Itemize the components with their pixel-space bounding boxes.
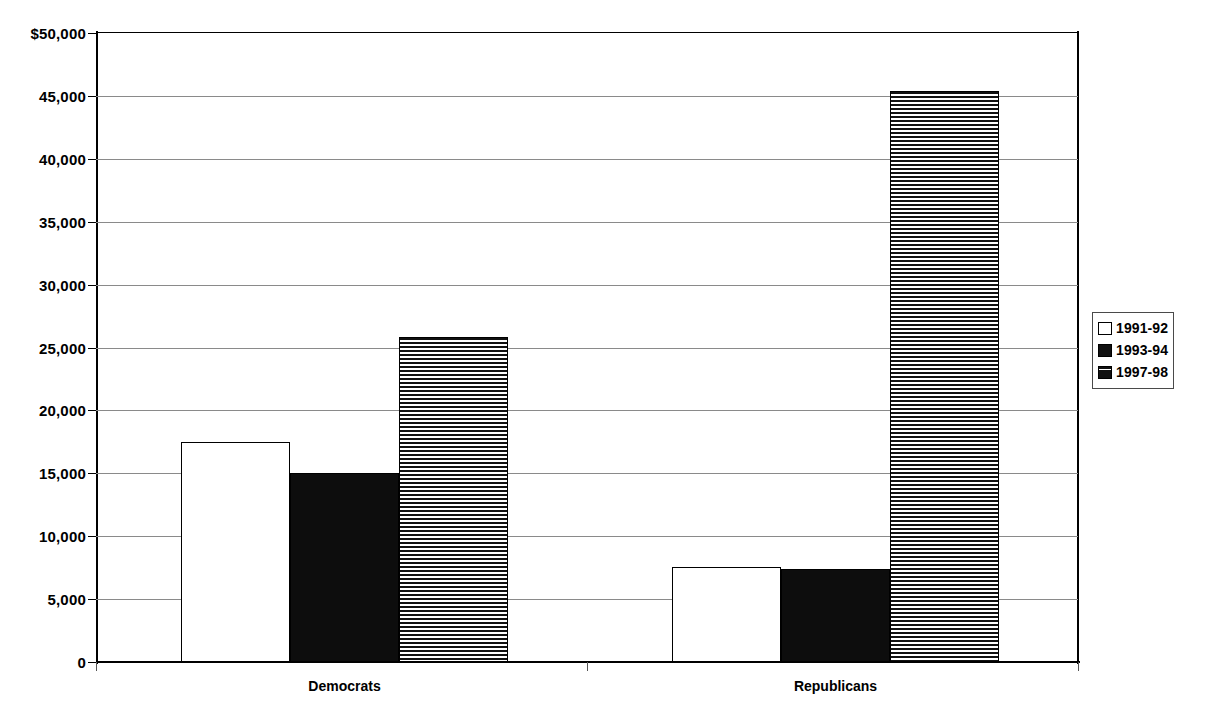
y-axis-tick-label: 35,000 — [39, 214, 86, 229]
y-axis-tick-mark — [88, 662, 96, 663]
y-axis-tick-mark — [88, 285, 96, 286]
y-axis-tick-mark — [88, 348, 96, 349]
legend-swatch-black-icon — [1098, 344, 1112, 357]
y-axis-tick-label: 20,000 — [39, 403, 86, 418]
y-axis-tick-label: 0 — [77, 655, 86, 670]
legend-item[interactable]: 1993-94 — [1098, 339, 1168, 361]
y-axis-tick-mark — [88, 599, 96, 600]
y-axis-tick-mark — [88, 473, 96, 474]
y-axis-tick-mark — [88, 96, 96, 97]
bar-republicans-1991-92 — [672, 567, 781, 662]
bar-chart: $50,00045,00040,00035,00030,00025,00020,… — [0, 0, 1209, 717]
legend-swatch-stripe-icon — [1098, 366, 1112, 379]
y-axis-tick-mark — [88, 159, 96, 160]
x-axis-tick-mark — [96, 662, 97, 671]
legend-item[interactable]: 1991-92 — [1098, 317, 1168, 339]
bar-republicans-1993-94 — [781, 569, 890, 662]
legend-item-label: 1993-94 — [1116, 342, 1168, 358]
legend-item-label: 1991-92 — [1116, 320, 1168, 336]
y-axis-tick-label: 40,000 — [39, 151, 86, 166]
bar-republicans-1997-98 — [890, 91, 999, 662]
y-axis-tick-mark — [88, 410, 96, 411]
y-axis-tick-mark — [88, 222, 96, 223]
y-axis-tick-label: 15,000 — [39, 466, 86, 481]
x-axis-category-label: Republicans — [794, 678, 877, 694]
y-axis-tick-label: $50,000 — [30, 26, 86, 41]
y-axis-tick-label: 10,000 — [39, 529, 86, 544]
y-axis-tick-label: 5,000 — [47, 592, 86, 607]
y-axis-tick-mark — [88, 536, 96, 537]
legend-swatch-white-icon — [1098, 322, 1112, 335]
x-axis-category-label: Democrats — [308, 678, 380, 694]
legend: 1991-921993-941997-98 — [1092, 312, 1174, 389]
bar-democrats-1997-98 — [399, 337, 508, 662]
legend-item-label: 1997-98 — [1116, 364, 1168, 380]
x-axis-tick-mark — [587, 662, 588, 671]
y-axis-tick-label: 25,000 — [39, 340, 86, 355]
y-axis-tick-label: 45,000 — [39, 88, 86, 103]
bar-democrats-1991-92 — [181, 442, 290, 662]
bar-democrats-1993-94 — [290, 473, 399, 662]
y-axis-tick-mark — [88, 33, 96, 34]
legend-item[interactable]: 1997-98 — [1098, 361, 1168, 383]
plot-area — [96, 33, 1078, 662]
x-axis-tick-mark — [1078, 662, 1079, 671]
y-axis-tick-label: 30,000 — [39, 277, 86, 292]
